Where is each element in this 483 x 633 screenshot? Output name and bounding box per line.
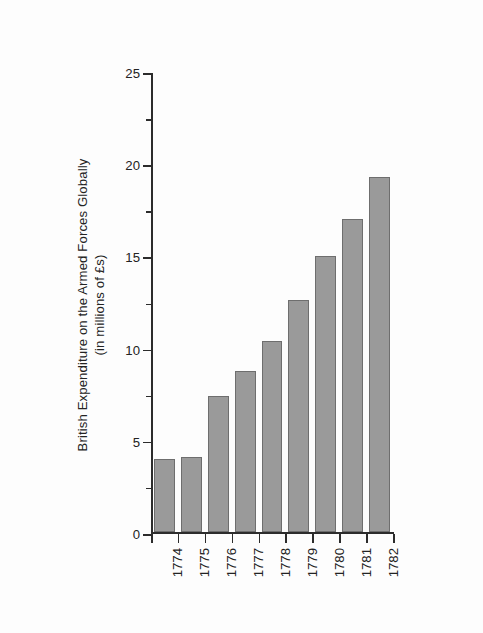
bar (154, 459, 175, 533)
x-axis-tick-label: 1777 (251, 548, 266, 577)
x-axis-tick-label: 1780 (332, 548, 347, 577)
x-axis-tick-label: 1778 (278, 548, 293, 577)
y-axis-title-line1: British Expenditure on the Armed Forces … (75, 159, 90, 452)
y-axis-tick-major (143, 257, 151, 259)
y-axis-tick-label: 25 (125, 66, 140, 81)
x-axis-tick (259, 534, 261, 543)
bar (208, 396, 229, 532)
x-axis-tick (178, 534, 180, 543)
bar (342, 219, 363, 532)
x-axis-tick-label: 1776 (224, 548, 239, 577)
bar (262, 341, 283, 533)
x-axis-tick-label: 1774 (170, 548, 185, 577)
x-axis-tick (205, 534, 207, 543)
x-axis-tick-label: 1782 (386, 548, 401, 577)
y-axis-title-line2: (in millions of £s) (91, 159, 108, 452)
x-axis-tick (366, 534, 368, 543)
y-axis-tick-label: 5 (133, 434, 140, 449)
x-axis-tick (232, 534, 234, 543)
bar (369, 177, 390, 532)
y-axis-tick-major (143, 442, 151, 444)
x-axis-tick (312, 534, 314, 543)
x-axis-tick (151, 534, 153, 543)
y-axis-title: British Expenditure on the Armed Forces … (70, 75, 112, 535)
y-axis-tick-label: 10 (125, 342, 140, 357)
y-axis-tick-major (143, 350, 151, 352)
x-axis-tick (339, 534, 341, 543)
bar (315, 256, 336, 533)
bar (288, 300, 309, 532)
bar (235, 371, 256, 532)
y-axis-tick-label: 15 (125, 250, 140, 265)
x-axis-tick-label: 1781 (359, 548, 374, 577)
y-axis-tick-label: 20 (125, 158, 140, 173)
x-axis-tick (285, 534, 287, 543)
x-axis-tick (393, 534, 395, 543)
y-axis-tick-major (143, 73, 151, 75)
y-axis-tick-label: 0 (133, 527, 140, 542)
bar-series (151, 73, 393, 532)
x-axis-tick-label: 1779 (305, 548, 320, 577)
chart-figure: British Expenditure on the Armed Forces … (0, 0, 483, 633)
bar (181, 457, 202, 533)
y-axis-tick-major (143, 165, 151, 167)
y-axis-tick-major (143, 534, 151, 536)
x-axis-line (151, 532, 394, 534)
x-axis-tick-label: 1775 (197, 548, 212, 577)
plot-area: 0510152025 17741775177617771778177917801… (151, 73, 393, 534)
